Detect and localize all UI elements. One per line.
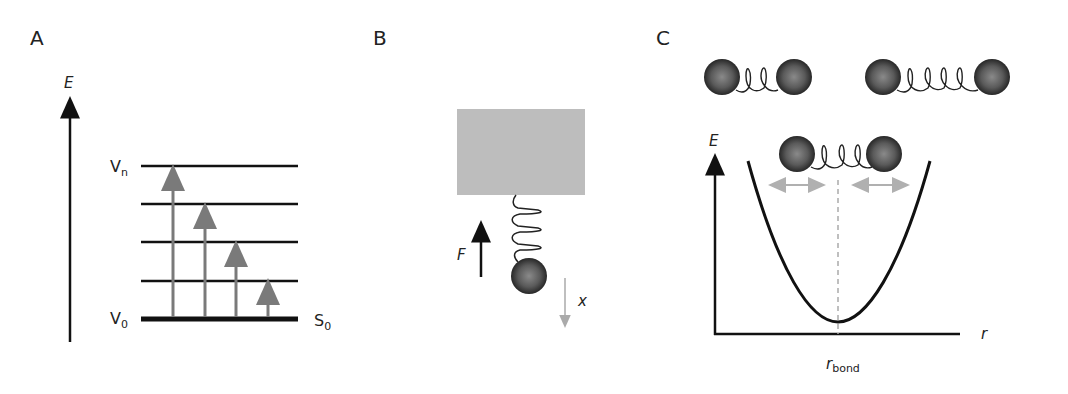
molecule-stretched <box>865 59 1010 95</box>
atom <box>865 59 901 95</box>
energy-axis-label: E <box>64 74 74 92</box>
panel-a: A E Vn V0 S0 <box>30 26 331 342</box>
fixed-block <box>457 109 585 195</box>
panel-c: C E r rbond <box>656 26 1010 375</box>
mass-ball <box>511 258 547 294</box>
spring-equilibrium <box>811 145 872 169</box>
panel-label-a: A <box>30 26 44 50</box>
panel-label-c: C <box>656 26 670 50</box>
state-label-s0: S0 <box>314 311 331 333</box>
atom <box>704 59 740 95</box>
spring-stretched <box>897 68 978 92</box>
spring-compressed <box>736 68 778 92</box>
force-label: F <box>457 246 466 264</box>
panel-b: B F x <box>373 26 587 322</box>
panel-label-b: B <box>373 26 387 50</box>
level-label-v0: V0 <box>110 309 128 331</box>
figure: A E Vn V0 S0 B F x C <box>0 0 1068 394</box>
atom <box>866 136 902 172</box>
equilibrium-label: rbond <box>826 355 860 375</box>
molecule-equilibrium <box>779 136 902 172</box>
vertical-spring <box>512 195 541 262</box>
level-label-vn: Vn <box>110 157 128 179</box>
energy-axis-label: E <box>709 132 719 150</box>
potential-curve <box>748 161 930 322</box>
atom <box>776 59 812 95</box>
atom <box>779 136 815 172</box>
molecule-compressed <box>704 59 812 95</box>
atom <box>974 59 1010 95</box>
distance-axis-label: r <box>981 325 988 343</box>
displacement-label: x <box>577 292 587 310</box>
